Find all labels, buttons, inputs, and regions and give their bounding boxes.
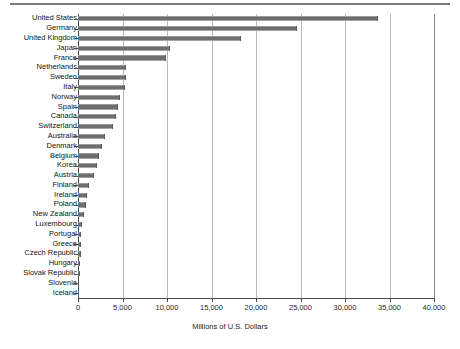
- category-label: Denmark: [47, 142, 77, 150]
- category-tick: [74, 234, 78, 235]
- x-tick: [256, 298, 257, 302]
- category-tick: [74, 244, 78, 245]
- x-tick: [167, 298, 168, 302]
- bar: [78, 114, 116, 119]
- category-label: Sweden: [50, 73, 77, 81]
- bar-row: [78, 212, 434, 217]
- x-tick: [78, 298, 79, 302]
- bar-row: [78, 46, 434, 51]
- bar-row: [78, 173, 434, 178]
- bar-row: [78, 85, 434, 90]
- category-label: Slovak Republic: [23, 269, 77, 277]
- bar: [78, 16, 378, 21]
- bar-row: [78, 153, 434, 158]
- category-label: Hungary: [49, 259, 77, 267]
- bar: [78, 36, 241, 41]
- bar: [78, 212, 84, 217]
- x-tick-label: 30,000: [334, 303, 357, 312]
- bar-chart-figure: 05,00010,00015,00020,00025,00030,00035,0…: [0, 0, 460, 349]
- category-tick: [74, 19, 78, 20]
- x-tick: [212, 298, 213, 302]
- x-tick-label: 35,000: [378, 303, 401, 312]
- bar-row: [78, 202, 434, 207]
- category-label: Czech Republic: [24, 249, 77, 257]
- category-tick: [74, 264, 78, 265]
- bar-row: [78, 232, 434, 237]
- x-axis-title: Millions of U.S. Dollars: [0, 322, 460, 331]
- category-tick: [74, 293, 78, 294]
- bar-row: [78, 75, 434, 80]
- bar-row: [78, 183, 434, 188]
- bar: [78, 95, 120, 100]
- category-tick: [74, 254, 78, 255]
- bar-row: [78, 242, 434, 247]
- x-tick-label: 25,000: [289, 303, 312, 312]
- x-tick: [345, 298, 346, 302]
- bar: [78, 173, 94, 178]
- bar: [78, 144, 102, 149]
- x-tick-label: 15,000: [200, 303, 223, 312]
- bar-row: [78, 144, 434, 149]
- bar: [78, 222, 82, 227]
- bar-row: [78, 163, 434, 168]
- bar: [78, 261, 80, 266]
- category-label: Slovenia: [48, 279, 77, 287]
- category-tick: [74, 156, 78, 157]
- category-tick: [74, 136, 78, 137]
- category-tick: [74, 225, 78, 226]
- category-label: Luxembourg: [35, 220, 77, 228]
- plot-right-border: [434, 14, 435, 299]
- category-tick: [74, 176, 78, 177]
- category-tick: [74, 146, 78, 147]
- bar-row: [78, 104, 434, 109]
- bar-row: [78, 124, 434, 129]
- category-tick: [74, 97, 78, 98]
- bar: [78, 65, 126, 70]
- bar: [78, 46, 170, 51]
- category-label: Switzerland: [38, 122, 77, 130]
- category-label: United Kingdom: [24, 34, 77, 42]
- category-tick: [74, 127, 78, 128]
- bar: [78, 281, 79, 286]
- bar-row: [78, 26, 434, 31]
- bar: [78, 242, 81, 247]
- bar: [78, 183, 89, 188]
- bar-row: [78, 222, 434, 227]
- bar-row: [78, 261, 434, 266]
- x-tick-label: 0: [76, 303, 80, 312]
- x-tick-label: 40,000: [423, 303, 446, 312]
- bar: [78, 271, 80, 276]
- bar-row: [78, 114, 434, 119]
- category-label: United States: [32, 14, 77, 22]
- category-tick: [74, 87, 78, 88]
- bar: [78, 193, 87, 198]
- bar-row: [78, 251, 434, 256]
- category-label: Belgium: [50, 152, 77, 160]
- bar-row: [78, 95, 434, 100]
- bar: [78, 55, 166, 60]
- bar-row: [78, 193, 434, 198]
- x-tick-label: 20,000: [245, 303, 268, 312]
- bar-row: [78, 134, 434, 139]
- x-tick-label: 5,000: [113, 303, 132, 312]
- category-label: Australia: [48, 132, 77, 140]
- bar: [78, 85, 125, 90]
- category-tick: [74, 205, 78, 206]
- bar-row: [78, 281, 434, 286]
- category-tick: [74, 283, 78, 284]
- bar: [78, 75, 126, 80]
- x-tick: [434, 298, 435, 302]
- category-tick: [74, 38, 78, 39]
- category-tick: [74, 195, 78, 196]
- x-tick: [390, 298, 391, 302]
- category-label: Netherlands: [37, 63, 77, 71]
- category-label: Germany: [46, 24, 77, 32]
- category-tick: [74, 166, 78, 167]
- category-tick: [74, 117, 78, 118]
- bar: [78, 251, 81, 256]
- bar-row: [78, 271, 434, 276]
- bar: [78, 26, 297, 31]
- category-tick: [74, 107, 78, 108]
- bar-row: [78, 36, 434, 41]
- bar-row: [78, 16, 434, 21]
